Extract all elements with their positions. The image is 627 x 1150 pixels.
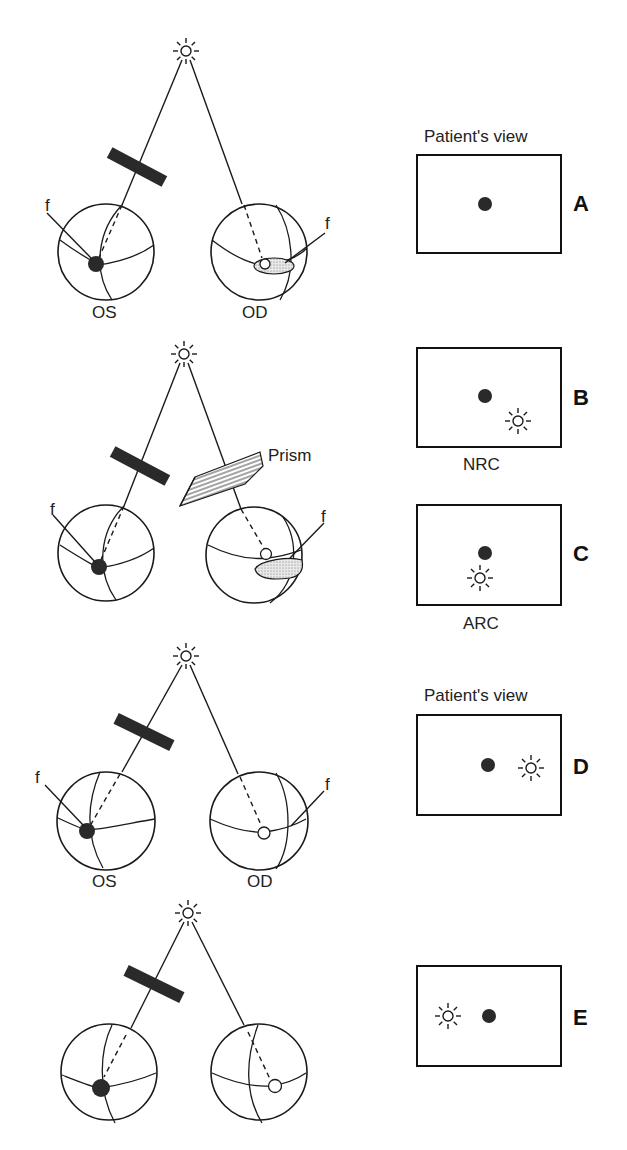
- eyeball-od: [206, 507, 324, 603]
- fixation-dot-icon: [481, 758, 495, 772]
- eyeball-od: [211, 204, 325, 300]
- prism-icon: [180, 452, 263, 506]
- panel-letter-d: D: [573, 754, 589, 780]
- fovea-os: [91, 559, 107, 575]
- fovea-label: f: [325, 775, 330, 795]
- os-label: OS: [92, 303, 117, 323]
- eyeball-os: [45, 772, 155, 870]
- red-filter-bar: [107, 147, 167, 187]
- fovea-os: [79, 823, 95, 839]
- patients-view-title: Patient's view: [424, 686, 527, 706]
- fixation-dot-icon: [478, 389, 492, 403]
- eyeball-od: [211, 1024, 307, 1123]
- red-filter-bar: [114, 713, 175, 751]
- panel-letter-b: B: [573, 385, 589, 411]
- fovea-label: f: [50, 500, 55, 520]
- fixation-dot-icon: [478, 197, 492, 211]
- os-label: OS: [92, 872, 117, 892]
- diagram-canvas: [0, 0, 627, 1150]
- red-filter-bar: [110, 446, 170, 486]
- panel-letter-c: C: [573, 541, 589, 567]
- eyeball-os: [61, 1024, 157, 1123]
- patients-view-title: Patient's view: [424, 127, 527, 147]
- scene-bc: [53, 341, 324, 603]
- fovea-os: [88, 256, 104, 272]
- fixation-dot-icon: [478, 546, 492, 560]
- fovea-label: f: [45, 196, 50, 216]
- eyeball-os: [53, 505, 154, 601]
- eyeball-od: [210, 772, 324, 870]
- light-source-icon: [171, 341, 197, 367]
- fovea-label: f: [321, 507, 326, 527]
- fovea-os: [92, 1079, 110, 1097]
- arc-label: ARC: [463, 614, 499, 634]
- scene-a: [47, 38, 325, 300]
- od-label: OD: [242, 303, 268, 323]
- eyeball-os: [47, 204, 154, 300]
- light-source-icon: [173, 38, 199, 64]
- scene-d: [45, 643, 324, 870]
- od-label: OD: [247, 872, 273, 892]
- prism-label: Prism: [268, 446, 311, 466]
- panel-letter-e: E: [573, 1005, 588, 1031]
- nrc-label: NRC: [463, 455, 500, 475]
- panel-letter-a: A: [573, 191, 589, 217]
- scene-e: [61, 900, 307, 1123]
- light-source-icon: [173, 643, 199, 669]
- fovea-label: f: [325, 214, 330, 234]
- red-filter-bar: [124, 965, 185, 1003]
- light-source-icon: [175, 900, 201, 926]
- fovea-label: f: [35, 768, 40, 788]
- fixation-dot-icon: [482, 1009, 496, 1023]
